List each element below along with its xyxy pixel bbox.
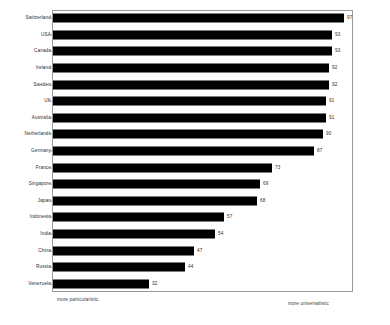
bar — [53, 30, 332, 39]
bar — [53, 229, 215, 238]
axis-tick-mark — [49, 250, 52, 251]
bar-value-label: 32 — [152, 281, 157, 287]
bar-value-label: 91 — [329, 98, 334, 104]
bar-category-label: Venezuela — [28, 281, 51, 287]
bar-value-label: 54 — [218, 231, 223, 237]
bar — [53, 97, 326, 106]
axis-tick-mark — [49, 217, 52, 218]
axis-tick-mark — [49, 117, 52, 118]
bar-row: Venezuela32 — [0, 275, 390, 292]
bar-value-label: 87 — [317, 148, 322, 154]
bar-row: India54 — [0, 226, 390, 243]
bar — [53, 196, 257, 205]
bar-row: Indonesia57 — [0, 209, 390, 226]
bar-row: Australia91 — [0, 110, 390, 127]
bar-chart-figure: Switzerland97USA93Canada93Ireland92Swede… — [0, 0, 390, 325]
bar — [53, 80, 329, 89]
bar-row: Ireland92 — [0, 60, 390, 77]
bar-category-label: Netherlands — [25, 131, 51, 137]
bar — [53, 180, 260, 189]
bar-value-label: 91 — [329, 115, 334, 121]
axis-tick-mark — [49, 34, 52, 35]
bar-row: Sweden92 — [0, 76, 390, 93]
axis-tick-mark — [49, 101, 52, 102]
bar-row: Singapore69 — [0, 176, 390, 193]
bar-value-label: 93 — [335, 48, 340, 54]
bar — [53, 246, 194, 255]
axis-tick-mark — [49, 68, 52, 69]
bar-category-label: Germany — [31, 148, 51, 154]
bar-row: Switzerland97 — [0, 10, 390, 27]
bar — [53, 113, 326, 122]
bar-rows-container: Switzerland97USA93Canada93Ireland92Swede… — [0, 10, 390, 292]
axis-tick-mark — [49, 233, 52, 234]
bar-row: Canada93 — [0, 43, 390, 60]
bar-category-label: Switzerland — [26, 15, 51, 21]
bar-row: Germany87 — [0, 143, 390, 160]
bar — [53, 64, 329, 73]
axis-tick-mark — [49, 134, 52, 135]
bar-value-label: 47 — [197, 248, 202, 254]
bar — [53, 47, 332, 56]
bar-category-label: Indonesia — [30, 214, 51, 220]
axis-tick-mark — [49, 283, 52, 284]
bar — [53, 213, 224, 222]
bar-value-label: 44 — [188, 264, 193, 270]
bar-value-label: 57 — [227, 214, 232, 220]
bar-row: France73 — [0, 159, 390, 176]
bar-row: Russia44 — [0, 259, 390, 276]
bar — [53, 130, 323, 139]
bar-row: USA93 — [0, 27, 390, 44]
bar — [53, 163, 272, 172]
axis-tick-mark — [49, 267, 52, 268]
bar-value-label: 92 — [332, 65, 337, 71]
bar-value-label: 68 — [260, 198, 265, 204]
bar-value-label: 97 — [347, 15, 352, 21]
axis-tick-mark — [49, 18, 52, 19]
axis-caption-left: more particularistic — [57, 297, 99, 303]
axis-tick-mark — [49, 200, 52, 201]
bar — [53, 146, 314, 155]
bar-row: UK91 — [0, 93, 390, 110]
bar-row: China47 — [0, 242, 390, 259]
axis-tick-mark — [49, 84, 52, 85]
bar-value-label: 92 — [332, 82, 337, 88]
bar-row: Japan68 — [0, 192, 390, 209]
bar-value-label: 69 — [263, 181, 268, 187]
axis-tick-mark — [49, 167, 52, 168]
axis-caption-right: more universalistic — [288, 301, 329, 307]
bar — [53, 14, 344, 23]
bar — [53, 263, 185, 272]
axis-tick-mark — [49, 184, 52, 185]
bar-value-label: 90 — [326, 131, 331, 137]
bar — [53, 279, 149, 288]
axis-tick-mark — [49, 150, 52, 151]
bar-value-label: 93 — [335, 32, 340, 38]
bar-row: Netherlands90 — [0, 126, 390, 143]
bar-value-label: 73 — [275, 165, 280, 171]
bar-category-label: Singapore — [29, 181, 51, 187]
axis-tick-mark — [49, 51, 52, 52]
